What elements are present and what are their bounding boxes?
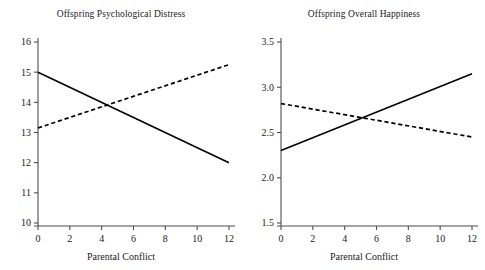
x-tick-label: 2 [67, 233, 72, 244]
y-tick-label: 15 [21, 67, 31, 78]
x-tick-label: 4 [342, 233, 347, 244]
plot-area: 1.52.02.53.03.5024681012 [243, 0, 485, 270]
series-line-solid [38, 72, 229, 163]
x-tick-label: 10 [435, 233, 445, 244]
x-tick-label: 12 [224, 233, 234, 244]
x-tick-label: 4 [99, 233, 104, 244]
x-tick-label: 0 [36, 233, 41, 244]
y-tick-label: 2.0 [262, 172, 275, 183]
series-line-dashed [281, 104, 472, 137]
figure-canvas: Offspring Psychological Distress 1011121… [0, 0, 485, 270]
chart-panel-distress: Offspring Psychological Distress 1011121… [0, 0, 242, 270]
x-axis-label: Parental Conflict [243, 251, 485, 262]
y-tick-label: 11 [21, 187, 31, 198]
x-tick-label: 10 [192, 233, 202, 244]
y-tick-label: 1.5 [262, 217, 275, 228]
x-tick-label: 8 [163, 233, 168, 244]
y-tick-label: 16 [21, 36, 31, 47]
y-tick-label: 2.5 [262, 127, 275, 138]
series-line-solid [281, 74, 472, 151]
plot-area: 10111213141516024681012 [0, 0, 242, 270]
x-tick-label: 6 [374, 233, 379, 244]
x-axis-label: Parental Conflict [0, 251, 242, 262]
x-tick-label: 2 [310, 233, 315, 244]
y-tick-label: 14 [21, 97, 31, 108]
y-tick-label: 3.5 [262, 36, 275, 47]
x-tick-label: 0 [279, 233, 284, 244]
x-tick-label: 8 [406, 233, 411, 244]
x-tick-label: 12 [467, 233, 477, 244]
chart-panel-happiness: Offspring Overall Happiness 1.52.02.53.0… [243, 0, 485, 270]
y-tick-label: 13 [21, 127, 31, 138]
x-tick-label: 6 [131, 233, 136, 244]
y-tick-label: 3.0 [262, 82, 275, 93]
y-tick-label: 10 [21, 217, 31, 228]
y-tick-label: 12 [21, 157, 31, 168]
series-line-dashed [38, 65, 229, 128]
